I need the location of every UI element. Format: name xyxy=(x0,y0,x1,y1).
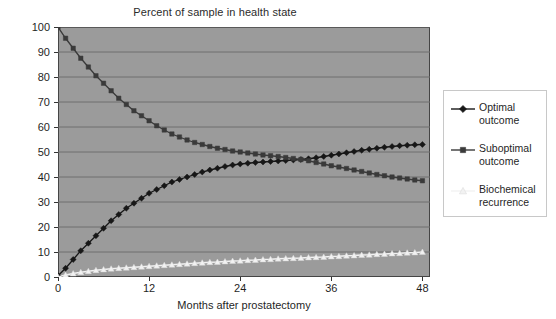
data-point-marker xyxy=(413,178,417,182)
data-point-marker xyxy=(328,152,334,158)
data-point-marker xyxy=(321,154,327,160)
plot-series-svg xyxy=(58,27,430,277)
data-point-marker xyxy=(404,142,410,148)
y-tick-label: 90 xyxy=(4,46,50,58)
data-point-marker xyxy=(252,160,258,166)
data-point-marker xyxy=(101,81,105,85)
y-tick-label: 20 xyxy=(4,221,50,233)
data-point-marker xyxy=(329,164,333,168)
data-point-marker xyxy=(375,172,379,176)
y-tick-label: 80 xyxy=(4,71,50,83)
data-point-marker xyxy=(154,187,160,193)
x-tick-label: 48 xyxy=(402,282,442,294)
data-point-marker xyxy=(382,174,386,178)
data-point-marker xyxy=(337,165,341,169)
data-point-marker xyxy=(397,176,401,180)
data-point-marker xyxy=(390,175,394,179)
data-point-marker xyxy=(343,150,349,156)
data-point-marker xyxy=(147,119,151,123)
data-point-marker xyxy=(132,109,136,113)
y-tick-label: 100 xyxy=(4,21,50,33)
y-tick-label: 40 xyxy=(4,171,50,183)
data-point-marker xyxy=(238,150,242,154)
data-point-marker xyxy=(291,156,295,160)
data-point-marker xyxy=(71,46,75,50)
data-point-marker xyxy=(94,74,98,78)
data-point-marker xyxy=(374,145,380,151)
chart-figure: Percent of sample in health state Percen… xyxy=(0,0,556,319)
x-tick-label: 24 xyxy=(220,282,260,294)
x-tick-mark xyxy=(58,277,59,281)
data-point-marker xyxy=(344,166,348,170)
x-tick-label: 12 xyxy=(129,282,169,294)
legend-label: Optimal outcome xyxy=(476,101,519,126)
data-point-marker xyxy=(268,154,272,158)
data-point-marker xyxy=(230,162,236,168)
x-tick-mark xyxy=(331,277,332,281)
plot-area xyxy=(58,27,430,277)
data-point-marker xyxy=(420,179,424,183)
data-point-marker xyxy=(246,151,250,155)
data-point-marker xyxy=(306,159,310,163)
data-point-marker xyxy=(389,144,395,150)
data-point-marker xyxy=(63,36,67,40)
data-point-marker xyxy=(214,165,220,171)
data-point-marker xyxy=(253,152,257,156)
data-point-marker xyxy=(207,167,213,173)
data-point-marker xyxy=(314,160,318,164)
data-point-marker xyxy=(124,102,128,106)
data-point-marker xyxy=(139,114,143,118)
x-tick-mark xyxy=(240,277,241,281)
y-tick-label: 10 xyxy=(4,246,50,258)
data-point-marker xyxy=(260,159,266,165)
series-suboptimal-outcome xyxy=(58,27,425,183)
legend-item[interactable]: Suboptimal outcome xyxy=(450,142,546,167)
data-point-marker xyxy=(397,143,403,149)
data-point-marker xyxy=(359,169,363,173)
data-point-marker xyxy=(86,65,90,69)
data-point-marker xyxy=(185,138,189,142)
data-point-marker xyxy=(237,161,243,167)
y-tick-label: 50 xyxy=(4,146,50,158)
data-point-marker xyxy=(366,146,372,152)
data-point-marker xyxy=(79,56,83,60)
data-point-marker xyxy=(284,155,288,159)
series-line xyxy=(58,27,422,181)
x-tick-label: 36 xyxy=(311,282,351,294)
data-point-marker xyxy=(199,169,205,175)
data-point-marker xyxy=(405,177,409,181)
data-point-marker xyxy=(276,154,280,158)
legend-marker-square-icon xyxy=(450,143,476,157)
data-point-marker xyxy=(184,174,190,180)
data-point-marker xyxy=(367,171,371,175)
data-point-marker xyxy=(261,153,265,157)
data-point-marker xyxy=(412,142,418,148)
chart-title: Percent of sample in health state xyxy=(0,6,430,18)
data-point-marker xyxy=(419,142,425,148)
x-tick-mark xyxy=(422,277,423,281)
x-tick-mark xyxy=(149,277,150,281)
series-biochemical-recurrence xyxy=(58,249,425,277)
data-point-marker xyxy=(162,128,166,132)
data-point-marker xyxy=(161,183,167,189)
data-point-marker xyxy=(351,149,357,155)
data-point-marker xyxy=(313,155,319,161)
data-point-marker xyxy=(299,157,303,161)
data-point-marker xyxy=(154,124,158,128)
data-point-marker xyxy=(208,144,212,148)
data-point-marker xyxy=(192,140,196,144)
data-point-marker xyxy=(109,89,113,93)
data-point-marker xyxy=(169,179,175,185)
data-point-marker xyxy=(352,168,356,172)
data-point-marker xyxy=(223,147,227,151)
y-tick-label: 70 xyxy=(4,96,50,108)
data-point-marker xyxy=(381,144,387,150)
data-point-marker xyxy=(245,160,251,166)
data-point-marker xyxy=(222,164,228,170)
data-point-marker xyxy=(117,96,121,100)
data-point-marker xyxy=(215,146,219,150)
chart-legend: Optimal outcomeSuboptimal outcomeBiochem… xyxy=(443,90,547,217)
legend-item[interactable]: Biochemical recurrence xyxy=(450,183,546,208)
legend-item[interactable]: Optimal outcome xyxy=(450,101,546,126)
legend-marker-triangle-icon xyxy=(450,184,476,198)
